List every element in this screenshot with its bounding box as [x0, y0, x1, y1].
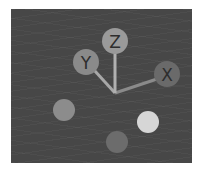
- y-axis-line: [94, 70, 115, 93]
- y-axis-label: Y: [80, 53, 92, 73]
- y-axis-button[interactable]: Y: [73, 49, 99, 75]
- neg-y-axis-ball[interactable]: [53, 99, 75, 121]
- z-axis-label: Z: [109, 32, 121, 52]
- x-axis-line: [115, 78, 160, 93]
- x-axis-label: X: [161, 65, 173, 85]
- neg-x-axis-ball[interactable]: [137, 111, 159, 133]
- z-axis-button[interactable]: Z: [102, 28, 128, 54]
- navigation-gizmo[interactable]: X Y Z: [0, 0, 201, 172]
- x-axis-button[interactable]: X: [154, 61, 180, 87]
- neg-z-axis-ball[interactable]: [106, 131, 128, 153]
